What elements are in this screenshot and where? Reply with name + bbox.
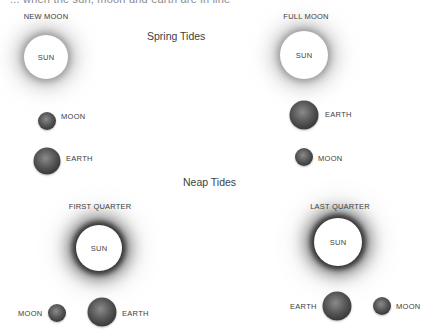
earth-icon (290, 101, 319, 130)
neap-tides-title: Neap Tides (183, 176, 236, 188)
phase-label-first-quarter: FIRST QUARTER (69, 202, 132, 211)
sun-icon: SUN (76, 225, 122, 271)
moon-label: MOON (61, 112, 86, 121)
earth-icon (88, 298, 117, 327)
moon-icon (38, 112, 56, 130)
phase-label-last-quarter: LAST QUARTER (310, 202, 370, 211)
earth-icon (323, 292, 352, 321)
moon-label: MOON (18, 309, 43, 318)
earth-icon (34, 148, 61, 175)
moon-icon (48, 304, 66, 322)
phase-label-full-moon: FULL MOON (283, 12, 328, 21)
earth-label: EARTH (290, 302, 317, 311)
sun-label: SUN (296, 51, 313, 60)
sun-label: SUN (330, 238, 347, 247)
sun-icon: SUN (24, 35, 68, 79)
clipped-caption: ... when the sun, moon and earth are in … (10, 0, 230, 5)
sun-label: SUN (91, 244, 108, 253)
earth-label: EARTH (122, 309, 149, 318)
spring-tides-title: Spring Tides (147, 30, 205, 42)
sun-label: SUN (38, 53, 55, 62)
phase-label-new-moon: NEW MOON (24, 12, 69, 21)
earth-label: EARTH (325, 110, 352, 119)
earth-label: EARTH (66, 154, 93, 163)
moon-icon (373, 297, 391, 315)
moon-label: MOON (396, 302, 421, 311)
moon-label: MOON (318, 154, 343, 163)
moon-icon (295, 148, 313, 166)
sun-icon: SUN (280, 31, 328, 79)
sun-icon: SUN (314, 218, 362, 266)
